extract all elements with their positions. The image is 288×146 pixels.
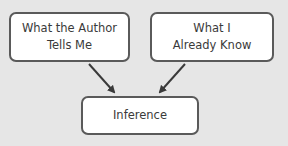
- node-what-the-author-tells-me: What the Author Tells Me: [9, 12, 130, 62]
- node-label-line2: Already Know: [173, 37, 252, 54]
- arrow-know-to-inference: [160, 64, 185, 92]
- arrow-author-to-inference: [89, 64, 114, 92]
- node-label-line2: Tells Me: [22, 37, 117, 54]
- node-inference: Inference: [81, 96, 199, 135]
- node-label-line1: What the Author: [22, 20, 117, 37]
- node-label: Inference: [113, 107, 167, 124]
- node-label-line1: What I: [173, 20, 252, 37]
- node-what-i-already-know: What I Already Know: [150, 12, 274, 62]
